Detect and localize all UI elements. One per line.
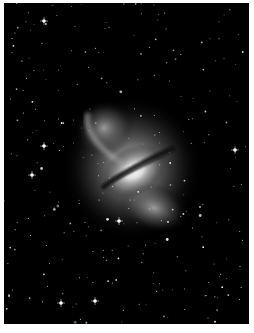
- star: [106, 22, 107, 23]
- star: [58, 119, 59, 120]
- star: [12, 38, 13, 39]
- star: [43, 70, 44, 71]
- star: [16, 3, 17, 4]
- star: [62, 293, 64, 295]
- star: [184, 180, 186, 182]
- star: [186, 211, 187, 212]
- star: [86, 235, 87, 236]
- star: [145, 304, 146, 305]
- star: [30, 235, 31, 236]
- star: [99, 199, 100, 200]
- star: [181, 96, 182, 97]
- star: [184, 289, 185, 290]
- star: [143, 253, 144, 254]
- star: [154, 115, 155, 116]
- star: [159, 142, 160, 143]
- star: [33, 70, 34, 71]
- star: [226, 258, 227, 259]
- star: [128, 208, 129, 209]
- star: [172, 209, 174, 211]
- star: [201, 42, 203, 44]
- star: [46, 79, 47, 80]
- star: [109, 177, 110, 178]
- star: [237, 101, 238, 102]
- star-spike: [40, 17, 48, 25]
- star: [166, 238, 169, 241]
- star: [224, 14, 225, 15]
- star: [59, 150, 60, 151]
- star: [37, 162, 38, 163]
- star: [199, 214, 202, 217]
- star: [58, 90, 59, 91]
- star: [175, 58, 177, 60]
- star: [83, 157, 84, 158]
- star: [208, 317, 209, 318]
- star: [217, 297, 218, 298]
- star: [100, 229, 102, 231]
- star: [154, 135, 155, 136]
- star: [159, 283, 160, 284]
- star: [208, 282, 209, 283]
- star: [128, 246, 129, 247]
- star: [219, 21, 220, 22]
- star: [240, 266, 241, 267]
- star: [149, 208, 150, 209]
- star: [73, 143, 74, 144]
- star: [169, 81, 170, 82]
- star: [192, 227, 193, 228]
- star: [92, 282, 93, 283]
- star: [151, 187, 152, 188]
- star: [209, 91, 210, 92]
- star: [202, 246, 204, 248]
- star-spike: [231, 146, 239, 154]
- star: [139, 304, 140, 305]
- star: [226, 122, 228, 124]
- star: [29, 58, 30, 59]
- star: [57, 205, 60, 208]
- star: [172, 289, 173, 290]
- star: [81, 127, 82, 128]
- star: [130, 200, 131, 201]
- star: [40, 167, 43, 170]
- star: [33, 24, 34, 25]
- star: [28, 12, 29, 13]
- star: [104, 28, 105, 29]
- star: [112, 250, 113, 251]
- star: [45, 23, 47, 25]
- star: [141, 3, 142, 4]
- star: [88, 226, 89, 227]
- star: [245, 146, 246, 147]
- star: [159, 132, 160, 133]
- star: [157, 19, 158, 20]
- star: [25, 21, 26, 22]
- star: [202, 69, 204, 71]
- star: [191, 143, 192, 144]
- star: [229, 9, 230, 10]
- star: [169, 162, 171, 164]
- star: [226, 278, 227, 279]
- star: [180, 54, 181, 55]
- star: [17, 155, 18, 156]
- star: [26, 78, 27, 79]
- star: [28, 218, 29, 219]
- star: [121, 166, 122, 167]
- star: [73, 231, 74, 232]
- star: [224, 58, 225, 59]
- star: [137, 191, 139, 193]
- star: [219, 38, 220, 39]
- star: [62, 122, 64, 124]
- star: [85, 222, 86, 223]
- star: [192, 118, 193, 119]
- star: [41, 43, 42, 44]
- star: [241, 287, 242, 288]
- star: [103, 162, 104, 163]
- star: [23, 90, 24, 91]
- star: [162, 290, 163, 291]
- star: [35, 109, 36, 110]
- star: [98, 163, 99, 164]
- star: [15, 229, 16, 230]
- star: [63, 146, 64, 147]
- star: [173, 49, 175, 51]
- star: [239, 299, 240, 300]
- star: [216, 222, 217, 223]
